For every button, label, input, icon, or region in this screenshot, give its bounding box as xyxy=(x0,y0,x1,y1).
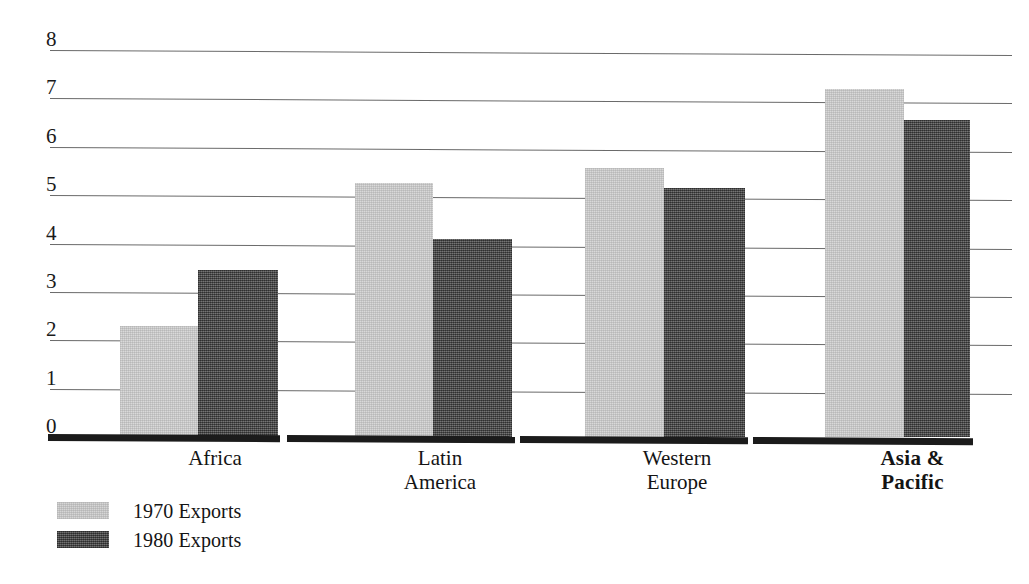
bar-asia-pacific-1970 xyxy=(825,89,904,437)
bar-asia-pacific-1980 xyxy=(904,120,970,437)
y-tick-label-1: 1 xyxy=(46,368,72,389)
legend-swatch-1970-icon xyxy=(57,502,109,519)
y-tick-label-5: 5 xyxy=(46,174,72,195)
baseline-asia-pacific xyxy=(753,437,973,445)
category-label-asia-pacific: Asia & Pacific xyxy=(845,446,980,494)
y-tick-label-8: 8 xyxy=(46,29,72,50)
bar-latin-america-1980 xyxy=(433,239,512,437)
legend: 1970 Exports 1980 Exports xyxy=(57,498,241,556)
category-label-latin-america: Latin America xyxy=(375,446,505,494)
category-label-africa: Africa xyxy=(150,446,280,470)
baseline-africa xyxy=(48,434,280,442)
y-tick-label-7: 7 xyxy=(46,77,72,98)
legend-label-1970: 1970 Exports xyxy=(133,501,241,521)
baseline-latin-america xyxy=(287,435,515,443)
y-tick-label-3: 3 xyxy=(46,271,72,292)
baseline-western-europe xyxy=(520,436,748,444)
gridline-8 xyxy=(50,50,1012,56)
bar-latin-america-1970 xyxy=(355,183,433,437)
y-tick-label-2: 2 xyxy=(46,319,72,340)
bar-western-europe-1970 xyxy=(585,168,664,437)
y-tick-label-4: 4 xyxy=(46,223,72,244)
bar-africa-1980 xyxy=(198,270,278,437)
bar-chart: 8 7 6 5 4 3 2 1 0 Africa Latin America W… xyxy=(0,0,1029,584)
bar-western-europe-1980 xyxy=(664,188,745,437)
legend-item-1970: 1970 Exports xyxy=(57,498,241,523)
legend-label-1980: 1980 Exports xyxy=(133,530,241,550)
plot-area: 8 7 6 5 4 3 2 1 0 Africa Latin America W… xyxy=(0,0,1029,470)
legend-item-1980: 1980 Exports xyxy=(57,527,241,552)
y-tick-label-6: 6 xyxy=(46,126,72,147)
bar-africa-1970 xyxy=(120,326,198,437)
legend-swatch-1980-icon xyxy=(57,531,109,548)
category-label-western-europe: Western Europe xyxy=(607,446,747,494)
